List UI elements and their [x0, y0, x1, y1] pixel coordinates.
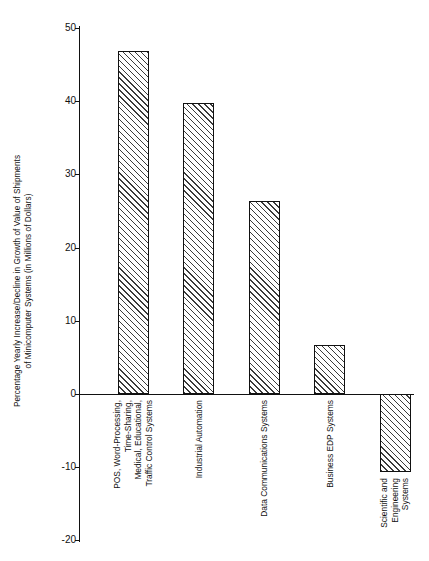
y-tick-mark [75, 540, 80, 541]
x-category-label-line: Systems [400, 478, 411, 528]
bar [249, 201, 280, 394]
bar [183, 103, 214, 394]
y-tick-label: 40 [48, 96, 76, 106]
y-axis-tick-labels: 50403020100-10-20 [46, 0, 76, 561]
x-category-label-line: Engineering [390, 478, 401, 528]
y-tick-label: 30 [48, 169, 76, 179]
zero-baseline [79, 394, 414, 395]
y-tick-label: 10 [48, 316, 76, 326]
y-axis-title-line-2: of Minicomputer Systems (in Millions of … [23, 154, 34, 406]
y-tick-label: -10 [48, 462, 76, 472]
y-axis-line [79, 26, 80, 542]
x-category-label-line: Data Communications Systems [259, 400, 270, 517]
bar [118, 51, 149, 394]
y-axis-title-line-1: Percentage Yearly Increase/Decline in Gr… [12, 154, 23, 406]
y-tick-mark [75, 467, 80, 468]
y-tick-label: 20 [48, 243, 76, 253]
plot-area: POS, Word-Processing,Time-Sharing,Medica… [79, 0, 429, 561]
x-category-label-line: Medical, Educational, [133, 400, 144, 489]
x-category-label-line: Industrial Automation [193, 400, 204, 478]
y-tick-label: 50 [48, 23, 76, 33]
x-category-label-line: POS, Word-Processing, [112, 400, 123, 489]
y-tick-label: 0 [48, 389, 76, 399]
y-tick-mark [75, 101, 80, 102]
y-tick-label: -20 [48, 535, 76, 545]
y-axis-title: Percentage Yearly Increase/Decline in Gr… [0, 0, 46, 561]
y-tick-mark [75, 321, 80, 322]
x-category-label-line: Business EDP Systems [324, 400, 335, 488]
x-category-label-line: Traffic Control Systems [144, 400, 155, 489]
bar [314, 345, 345, 394]
y-tick-mark [75, 174, 80, 175]
bar-chart: Percentage Yearly Increase/Decline in Gr… [0, 0, 429, 561]
x-category-label-line: Time-Sharing, [123, 400, 134, 489]
y-tick-mark [75, 28, 80, 29]
bar [380, 394, 411, 472]
y-tick-mark [75, 248, 80, 249]
y-tick-mark [75, 394, 80, 395]
x-category-label-line: Scientific and [379, 478, 390, 528]
